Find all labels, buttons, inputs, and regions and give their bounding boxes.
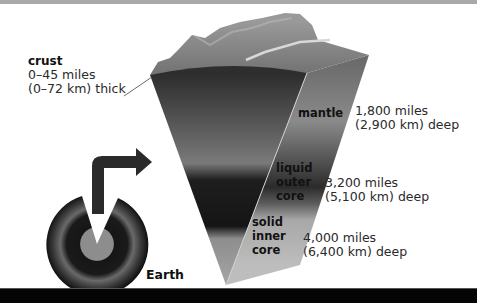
outer-core-depth-miles: 3,200 miles <box>325 176 429 190</box>
outer-core-title: liquid outer core <box>276 161 312 203</box>
mantle-label: 1,800 miles (2,900 km) deep <box>355 104 459 132</box>
mantle-title: mantle <box>298 106 343 120</box>
crust-label: crust 0–45 miles (0–72 km) thick <box>28 54 126 96</box>
crust-depth-km: (0–72 km) thick <box>28 82 126 96</box>
outer-core-label: 3,200 miles (5,100 km) deep <box>325 176 429 204</box>
outer-core-depth-km: (5,100 km) deep <box>325 190 429 204</box>
bottom-bar <box>0 288 477 303</box>
crust-leader-line <box>124 77 152 96</box>
inner-core-title: solid inner core <box>252 215 286 257</box>
inner-core-depth-miles: 4,000 miles <box>303 231 407 245</box>
mantle-depth-miles: 1,800 miles <box>355 104 459 118</box>
crust-title: crust <box>28 54 126 68</box>
earth-label: Earth <box>146 268 184 282</box>
inner-core-label: 4,000 miles (6,400 km) deep <box>303 231 407 259</box>
mantle-depth-km: (2,900 km) deep <box>355 118 459 132</box>
inner-core-depth-km: (6,400 km) deep <box>303 245 407 259</box>
crust-depth-miles: 0–45 miles <box>28 68 126 82</box>
